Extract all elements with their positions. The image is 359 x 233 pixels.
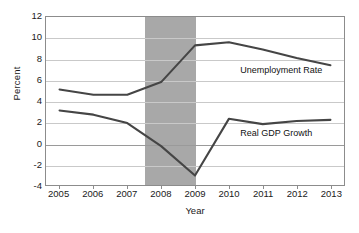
x-tick-mark-2010: [229, 185, 230, 189]
x-tick-mark-2011: [263, 185, 264, 189]
x-tick-mark-2012: [297, 185, 298, 189]
plot-area: Unemployment Rate Real GDP Growth: [45, 16, 345, 186]
x-tick-mark-2008: [161, 185, 162, 189]
y-axis-title: Percent: [11, 44, 22, 124]
x-axis-title: Year: [45, 205, 345, 216]
chart-container: 121086420-2-4 Percent Unemployment Rate …: [0, 0, 359, 233]
x-axis-tick-labels: 200520062007200820092010201120122013: [45, 189, 345, 203]
y-tick-label--2: -2: [16, 160, 42, 170]
y-tick-label-10: 10: [16, 32, 42, 42]
series-label-unemployment-rate: Unemployment Rate: [240, 65, 322, 75]
series-label-real-gdp-growth: Real GDP Growth: [240, 128, 312, 138]
y-tick-label-12: 12: [16, 11, 42, 21]
x-tick-mark-2007: [127, 185, 128, 189]
x-tick-mark-2005: [59, 185, 60, 189]
x-tick-mark-2009: [195, 185, 196, 189]
x-tick-label-2013: 2013: [311, 189, 351, 199]
x-tick-mark-2006: [93, 185, 94, 189]
series-lines: [46, 17, 344, 185]
x-tick-mark-2013: [331, 185, 332, 189]
series-line-real-gdp-growth: [60, 110, 331, 175]
y-tick-label-0: 0: [16, 139, 42, 149]
